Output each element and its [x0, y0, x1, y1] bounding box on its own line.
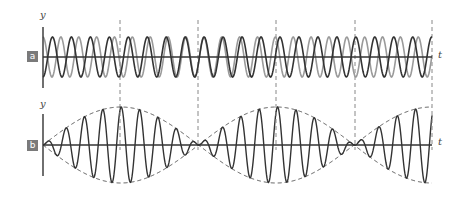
beats-diagram-svg [0, 0, 462, 197]
panel-b-t-axis-label: t [438, 136, 442, 147]
panel-a-badge: a [27, 51, 38, 62]
beats-figure: a y t b y t [0, 0, 462, 197]
panel-b-y-axis-label: y [40, 98, 46, 109]
panel-a-y-axis-label: y [40, 9, 46, 20]
panel-b-badge: b [27, 140, 38, 151]
panel-a-t-axis-label: t [438, 49, 442, 60]
